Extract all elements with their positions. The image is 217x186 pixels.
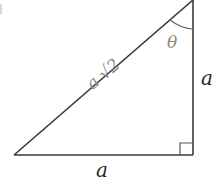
angle-arc	[170, 20, 193, 29]
vertical-leg-label: a	[201, 66, 213, 90]
angle-label-theta: θ	[167, 32, 177, 52]
right-angle-marker	[180, 143, 193, 155]
hypotenuse-label: a √2	[82, 54, 123, 93]
right-triangle-diagram: θ a a a √2	[0, 0, 217, 186]
horizontal-leg-label: a	[96, 158, 108, 182]
